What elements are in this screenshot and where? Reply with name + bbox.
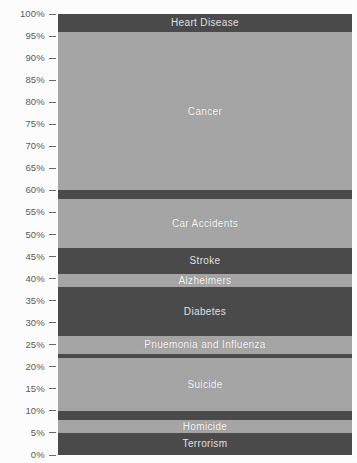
bar-segment <box>58 411 352 420</box>
y-axis-tick-mark <box>49 366 56 367</box>
bar-segment-label: Car Accidents <box>172 218 238 229</box>
y-axis-tick-label: 35% <box>25 295 45 307</box>
y-axis-tick-mark <box>49 80 56 81</box>
y-axis-tick-label: 45% <box>25 251 45 263</box>
y-axis-tick-label: 95% <box>25 30 45 42</box>
y-axis-tick: 30% <box>25 317 58 329</box>
y-axis-tick-label: 90% <box>25 52 45 64</box>
y-axis-tick-label: 65% <box>25 162 45 174</box>
y-axis-tick-label: 10% <box>25 405 45 417</box>
y-axis-tick: 20% <box>25 361 58 373</box>
bar-segment: Heart Disease <box>58 14 352 32</box>
y-axis-tick-label: 60% <box>25 184 45 196</box>
y-axis: 100%95%90%85%80%75%70%65%60%55%50%45%40%… <box>0 0 58 463</box>
y-axis-tick-mark <box>49 300 56 301</box>
y-axis-tick: 80% <box>25 96 58 108</box>
bar-segment: Alzheimers <box>58 274 352 287</box>
y-axis-tick: 35% <box>25 295 58 307</box>
y-axis-tick: 70% <box>25 140 58 152</box>
y-axis-tick: 45% <box>25 251 58 263</box>
bar-segment-label: Cancer <box>188 106 222 117</box>
y-axis-tick-mark <box>49 190 56 191</box>
y-axis-tick-mark <box>49 256 56 257</box>
bar-segment: Homicide <box>58 420 352 433</box>
stacked-bar-chart: ...causes of no-why death 100%95%90%85%8… <box>0 0 357 463</box>
y-axis-tick-label: 40% <box>25 273 45 285</box>
y-axis-tick-mark <box>49 344 56 345</box>
bar-segment-label: Homicide <box>183 421 227 432</box>
plot-area: Heart DiseaseCancerCar AccidentsStrokeAl… <box>58 14 352 455</box>
bar-segment: Suicide <box>58 358 352 411</box>
y-axis-tick: 50% <box>25 229 58 241</box>
bar-segment: Cancer <box>58 32 352 191</box>
y-axis-tick-label: 15% <box>25 383 45 395</box>
y-axis-tick: 40% <box>25 273 58 285</box>
y-axis-tick-mark <box>49 146 56 147</box>
y-axis-tick-mark <box>49 36 56 37</box>
y-axis-tick: 85% <box>25 74 58 86</box>
y-axis-tick-mark <box>49 388 56 389</box>
y-axis-tick-label: 0% <box>31 449 45 461</box>
y-axis-tick-mark <box>49 322 56 323</box>
y-axis-tick-mark <box>49 234 56 235</box>
y-axis-tick-label: 80% <box>25 96 45 108</box>
y-axis-tick-label: 75% <box>25 118 45 130</box>
bar-segment: Stroke <box>58 248 352 274</box>
y-axis-tick-label: 30% <box>25 317 45 329</box>
y-axis-tick-label: 100% <box>20 8 45 20</box>
y-axis-tick-label: 50% <box>25 229 45 241</box>
bar-segment: Diabetes <box>58 287 352 336</box>
bar-segment-label: Stroke <box>189 255 220 266</box>
y-axis-tick-mark <box>49 432 56 433</box>
y-axis-tick: 100% <box>20 8 58 20</box>
y-axis-tick: 15% <box>25 383 58 395</box>
y-axis-tick-label: 70% <box>25 140 45 152</box>
bar-segment-label: Diabetes <box>184 306 226 317</box>
bar-segment-label: Heart Disease <box>171 17 239 28</box>
y-axis-tick-label: 5% <box>31 427 45 439</box>
y-axis-tick: 10% <box>25 405 58 417</box>
y-axis-tick: 55% <box>25 206 58 218</box>
y-axis-tick-label: 85% <box>25 74 45 86</box>
bar-segment-label: Suicide <box>187 379 222 390</box>
y-axis-tick: 95% <box>25 30 58 42</box>
y-axis-tick-mark <box>49 58 56 59</box>
y-axis-tick-mark <box>49 455 56 456</box>
y-axis-tick-mark <box>49 124 56 125</box>
y-axis-tick: 90% <box>25 52 58 64</box>
y-axis-tick-mark <box>49 278 56 279</box>
y-axis-tick: 5% <box>31 427 58 439</box>
y-axis-tick-mark <box>49 410 56 411</box>
y-axis-tick: 75% <box>25 118 58 130</box>
bar-segment <box>58 190 352 199</box>
bar-segment-label: Terrorism <box>183 438 228 449</box>
y-axis-tick: 25% <box>25 339 58 351</box>
y-axis-tick-label: 20% <box>25 361 45 373</box>
bar-segment-label: Alzheimers <box>179 275 232 286</box>
bar-segment: Terrorism <box>58 433 352 455</box>
y-axis-tick: 60% <box>25 184 58 196</box>
y-axis-tick: 65% <box>25 162 58 174</box>
y-axis-tick: 0% <box>31 449 58 461</box>
bar-segment: Car Accidents <box>58 199 352 248</box>
bar-segment: Pnuemonia and Influenza <box>58 336 352 354</box>
y-axis-tick-mark <box>49 14 56 15</box>
y-axis-tick-label: 25% <box>25 339 45 351</box>
y-axis-tick-mark <box>49 212 56 213</box>
bar-segment-label: Pnuemonia and Influenza <box>144 339 265 350</box>
y-axis-tick-mark <box>49 102 56 103</box>
y-axis-tick-mark <box>49 168 56 169</box>
y-axis-tick-label: 55% <box>25 206 45 218</box>
